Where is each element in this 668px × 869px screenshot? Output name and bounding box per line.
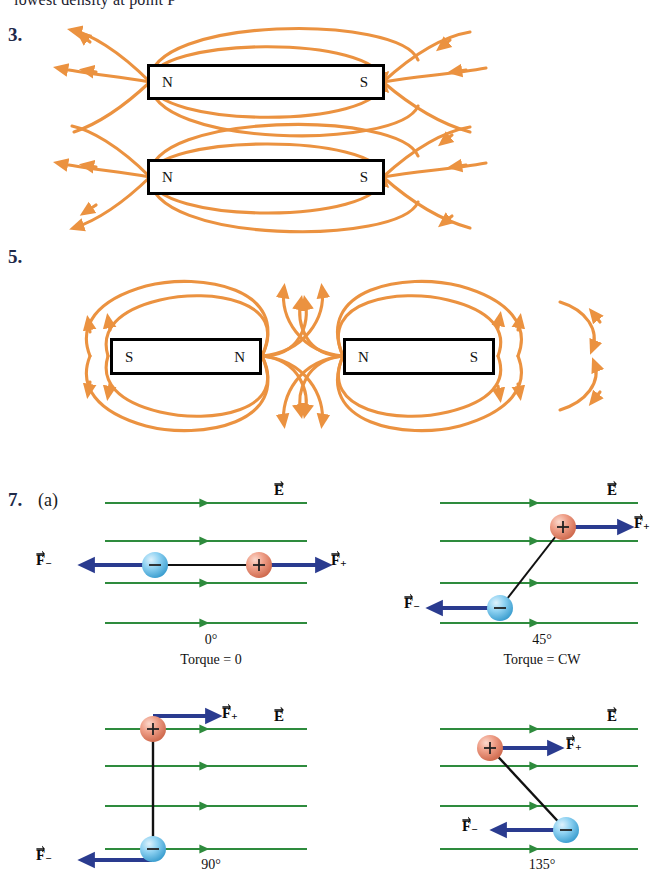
magnet-3a-pole-right: S [360,74,368,91]
force-positive-label-panel-a: F+ [331,552,346,569]
torque-label-panel-b: Torque = CW [472,652,612,668]
efield-lines-panel-a [105,503,307,623]
angle-label-panel-c: 90° [156,857,266,869]
dipole-panel-a [82,552,328,578]
fpos-d-sub: + [575,741,581,753]
angle-label-panel-d: 135° [487,857,597,869]
force-negative-label-panel-a: F− [36,552,51,569]
field-arrows-problem-5-left-magnet [88,318,110,396]
field-arrows-problem-5-right-magnet [498,312,600,402]
force-negative-label-panel-b: F− [404,595,419,612]
force-positive-label-panel-d: F+ [566,736,581,753]
magnet-3b-pole-left: N [162,169,173,186]
fneg-a-sub: − [45,557,51,569]
question-number-7: 7. [8,489,22,511]
fpos-c-sub: + [231,710,237,722]
fpos-b-sub: + [643,520,649,532]
efield-lines-panel-b [440,503,638,623]
dipole-panel-b [430,514,630,621]
force-positive-label-panel-c: F+ [222,705,237,722]
angle-label-panel-a: 0° [156,632,266,648]
efield-label-panel-d: E [607,708,617,725]
magnet-bar-5a: S N [110,338,262,375]
magnet-5a-pole-left: S [125,348,133,365]
efield-label-panel-c: E [274,708,284,725]
dipole-panel-c [82,716,218,862]
textbook-page: lowest density at point P [0,0,668,869]
magnet-5b-pole-right: S [470,348,478,365]
magnet-3b-pole-right: S [360,169,368,186]
fneg-b-sub: − [413,600,419,612]
fneg-c-sub: − [45,852,51,864]
question-7-part-a: (a) [38,490,58,511]
magnet-5a-pole-right: N [234,348,245,365]
question-number-3: 3. [8,24,22,46]
efield-label-panel-a: E [274,482,284,499]
efield-label-panel-b: E [607,482,617,499]
magnet-bar-3b: N S [147,159,385,195]
question-number-5: 5. [8,246,22,268]
magnet-bar-5b: N S [343,338,495,375]
clipped-header-text: lowest density at point P [14,0,176,9]
fneg-d-sub: − [471,823,477,835]
dipole-panel-d [477,735,579,843]
angle-label-panel-b: 45° [487,632,597,648]
force-negative-label-panel-d: F− [462,818,477,835]
force-positive-label-panel-b: F+ [634,515,649,532]
fpos-a-sub: + [340,557,346,569]
magnet-bar-3a: N S [147,64,385,100]
efield-lines-panel-c [105,729,307,849]
force-negative-label-panel-c: F− [36,847,51,864]
magnet-5b-pole-left: N [358,348,369,365]
magnet-3a-pole-left: N [162,74,173,91]
torque-label-panel-a: Torque = 0 [146,652,276,668]
